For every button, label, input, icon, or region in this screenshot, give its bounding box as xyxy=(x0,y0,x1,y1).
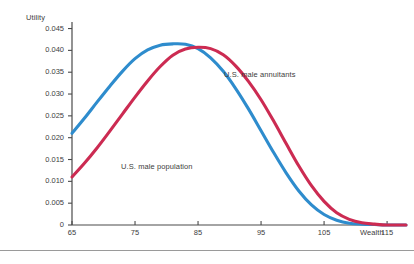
x-axis-tick-label: 75 xyxy=(120,228,150,237)
y-axis-tick-label: 0.005 xyxy=(24,198,64,207)
series-annotation-population: U.S. male population xyxy=(121,162,193,171)
y-axis-tick-label: 0.015 xyxy=(24,155,64,164)
y-axis-tick-label: 0.030 xyxy=(24,89,64,98)
x-axis-tick-label: 85 xyxy=(183,228,213,237)
x-axis-tick-label: 115 xyxy=(372,228,402,237)
series-annotation-annuitants: U.S. male annuitants xyxy=(224,70,296,79)
x-axis-tick-label: 65 xyxy=(57,228,87,237)
y-axis-title: Utility xyxy=(26,13,45,22)
bottom-divider-rule xyxy=(0,250,414,251)
x-axis-tick-label: 95 xyxy=(246,228,276,237)
chart-figure: Utility Wealth 00.0050.0100.0150.0200.02… xyxy=(0,0,414,264)
y-axis-tick-label: 0.010 xyxy=(24,176,64,185)
y-axis-tick-label: 0.025 xyxy=(24,111,64,120)
y-axis-tick-label: 0.020 xyxy=(24,133,64,142)
x-axis-tick-label: 105 xyxy=(309,228,339,237)
y-axis-tick-label: 0.040 xyxy=(24,45,64,54)
y-axis-tick-label: 0.045 xyxy=(24,24,64,33)
y-axis-tick-label: 0.035 xyxy=(24,67,64,76)
